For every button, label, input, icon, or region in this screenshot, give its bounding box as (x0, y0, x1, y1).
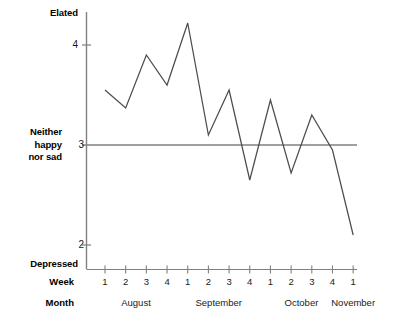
y-tick-label-2: 2 (66, 239, 84, 250)
week-tick-label: 3 (302, 276, 322, 287)
axis-anchor-depressed: Depressed (0, 258, 78, 271)
mood-line-chart: Elated Neither happy nor sad Depressed 4… (0, 0, 409, 327)
axis-anchor-neutral-line1: Neither (0, 126, 62, 139)
week-tick-label: 1 (260, 276, 280, 287)
week-tick-label: 4 (157, 276, 177, 287)
week-tick-label: 1 (343, 276, 363, 287)
week-tick-label: 1 (95, 276, 115, 287)
week-tick-label: 4 (322, 276, 342, 287)
week-tick-label: 3 (136, 276, 156, 287)
week-tick-label: 1 (178, 276, 198, 287)
month-group-label: August (96, 297, 176, 308)
y-tick-label-4: 4 (60, 39, 78, 50)
axis-anchor-neutral-line3: nor sad (0, 151, 62, 164)
month-row-title: Month (2, 297, 74, 308)
week-tick-label: 2 (281, 276, 301, 287)
week-tick-label: 3 (219, 276, 239, 287)
axis-anchor-elated: Elated (0, 7, 78, 20)
mood-data-line (105, 23, 353, 235)
y-tick-label-3: 3 (66, 139, 84, 150)
week-row-title: Week (2, 276, 74, 287)
axis-anchor-neutral: Neither happy nor sad (0, 126, 62, 164)
axis-anchor-neutral-line2: happy (0, 139, 62, 152)
week-tick-label: 2 (116, 276, 136, 287)
week-tick-label: 4 (240, 276, 260, 287)
month-group-label: November (313, 297, 393, 308)
week-tick-label: 2 (198, 276, 218, 287)
month-group-label: September (179, 297, 259, 308)
